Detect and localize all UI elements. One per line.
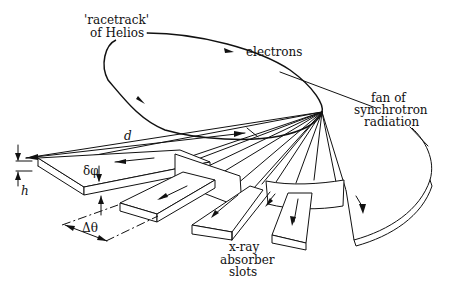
fan-label-line3: radiation <box>364 115 419 129</box>
synchrotron-fan-sector <box>346 128 432 246</box>
electrons-label: electrons <box>246 45 302 59</box>
racetrack-orbit <box>104 33 376 139</box>
delta-phi-label: δφ <box>83 164 99 178</box>
height-dimension <box>15 145 32 186</box>
racetrack-label-line1: 'racetrack' <box>84 13 149 27</box>
absorber-label-line3: slots <box>229 265 257 279</box>
absorber-label-line1: x-ray <box>229 240 260 254</box>
electron-direction-arrow-left <box>136 96 145 104</box>
height-label: h <box>21 184 29 198</box>
electron-direction-arrow-top <box>224 48 234 53</box>
diagram-canvas: 'racetrack' of Helios electrons fan of s… <box>0 0 454 284</box>
distance-label: d <box>124 129 132 143</box>
synchrotron-diagram: 'racetrack' of Helios electrons fan of s… <box>0 0 454 284</box>
delta-theta-label: Δθ <box>82 221 98 235</box>
racetrack-label-line2: of Helios <box>90 26 144 40</box>
